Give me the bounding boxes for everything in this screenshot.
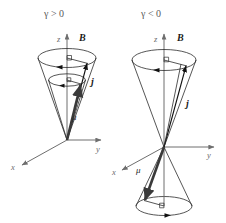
figure-root: γ > 0 z B y x j μ bbox=[0, 0, 226, 223]
canvas-background bbox=[0, 0, 226, 223]
right-x-axis-label: x bbox=[111, 167, 116, 177]
panel-right-title: γ < 0 bbox=[140, 8, 161, 19]
left-field-label-B: B bbox=[78, 32, 86, 43]
panel-left-title: γ > 0 bbox=[43, 8, 64, 19]
right-y-axis-label: y bbox=[206, 150, 211, 160]
left-y-axis-label: y bbox=[95, 144, 100, 154]
left-z-axis-label: z bbox=[56, 34, 61, 44]
right-vector-mu-label: μ bbox=[135, 165, 141, 175]
right-z-axis-label: z bbox=[153, 34, 158, 44]
physics-diagram-svg: γ > 0 z B y x j μ bbox=[0, 0, 226, 223]
right-field-label-B: B bbox=[176, 32, 184, 43]
left-vector-mu-label: μ bbox=[71, 112, 77, 122]
left-x-axis-label: x bbox=[10, 162, 15, 172]
